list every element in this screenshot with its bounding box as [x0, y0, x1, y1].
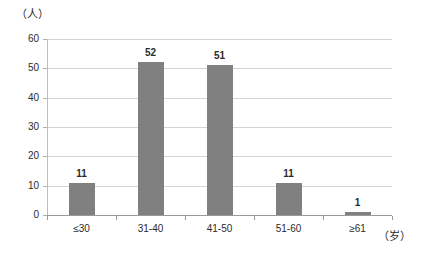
x-axis-tick-mark	[116, 216, 117, 220]
bar	[69, 183, 95, 215]
x-axis-tick-mark	[185, 216, 186, 220]
y-axis-tick-label-text: 60	[13, 34, 39, 44]
x-axis-category-label: 41-50	[190, 223, 250, 235]
y-axis-tick-label-text: 50	[13, 63, 39, 73]
bar-value-label: 1	[338, 198, 378, 208]
gridline	[47, 39, 392, 40]
x-axis-category-label: ≤30	[52, 223, 112, 235]
plot-area	[47, 39, 392, 215]
x-axis-unit-label: （岁）	[378, 230, 411, 243]
y-axis-tick-label: 0	[9, 210, 39, 220]
bar-value-label: 11	[62, 169, 102, 179]
y-axis-tick-label-text: 40	[13, 93, 39, 103]
bar	[276, 183, 302, 215]
bar	[138, 62, 164, 215]
y-axis-line	[47, 39, 48, 216]
bar-value-label: 51	[200, 51, 240, 61]
bar	[207, 65, 233, 215]
x-axis-line	[47, 215, 392, 216]
y-axis-tick-label: 30	[9, 122, 39, 132]
x-axis-tick-mark	[392, 216, 393, 220]
y-axis-tick-label: 20	[9, 151, 39, 161]
x-axis-category-label: 31-40	[121, 223, 181, 235]
x-axis-tick-mark	[254, 216, 255, 220]
x-axis-tick-mark	[323, 216, 324, 220]
y-axis-tick-label-text: 10	[13, 181, 39, 191]
y-axis-tick-label: 60	[9, 34, 39, 44]
y-axis-unit-label: （人）	[16, 8, 49, 21]
bar-value-label: 11	[269, 169, 309, 179]
x-axis-tick-mark	[47, 216, 48, 220]
y-axis-tick-label-text: 30	[13, 122, 39, 132]
bar-chart: （人） 0102030405060 115251111 ≤3031-4041-5…	[0, 0, 426, 258]
y-axis-tick-label-text: 0	[13, 210, 39, 220]
y-axis-tick-label-text: 20	[13, 151, 39, 161]
y-axis-tick-label: 50	[9, 63, 39, 73]
bar-value-label: 52	[131, 48, 171, 58]
x-axis-category-label: 51-60	[259, 223, 319, 235]
y-axis-tick-label: 40	[9, 93, 39, 103]
y-axis-tick-label: 10	[9, 181, 39, 191]
